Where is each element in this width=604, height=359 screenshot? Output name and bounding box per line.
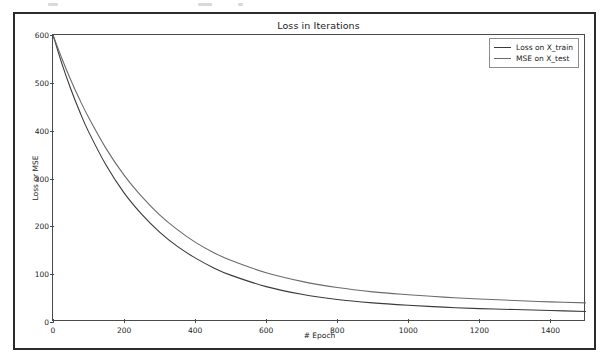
y-tick-label-0: 0 (27, 318, 49, 327)
y-tick-label-6: 600 (27, 31, 49, 40)
x-tick-label-0: 0 (51, 326, 56, 335)
capture-artifact-strip (0, 0, 604, 11)
chart-legend: Loss on X_trainMSE on X_test (489, 38, 579, 68)
series-line-1 (53, 35, 586, 303)
x-tick-label-5: 1000 (399, 326, 418, 335)
y-tick-label-2: 200 (27, 222, 49, 231)
legend-label-1: MSE on X_test (516, 54, 569, 63)
y-tick-label-5: 500 (27, 78, 49, 87)
loss-curves-plot (53, 35, 586, 322)
y-tick-label-4: 400 (27, 126, 49, 135)
x-tick-label-6: 1200 (470, 326, 489, 335)
legend-item-0[interactable]: Loss on X_train (494, 42, 573, 53)
x-tick-label-3: 600 (259, 326, 273, 335)
legend-line-swatch-1 (494, 58, 511, 59)
plot-axes-area: Loss or MSE # Epoch 0100200300400500600 … (52, 34, 585, 321)
y-tick-label-3: 300 (27, 174, 49, 183)
y-tick-label-1: 100 (27, 270, 49, 279)
figure-window-frame: Loss in Iterations Loss or MSE # Epoch 0… (13, 12, 596, 350)
x-tick-label-7: 1400 (541, 326, 560, 335)
chart-title: Loss in Iterations (52, 20, 585, 31)
legend-line-swatch-0 (494, 47, 511, 48)
x-tick-label-1: 200 (117, 326, 131, 335)
x-tick-label-4: 800 (330, 326, 344, 335)
x-tick-label-2: 400 (188, 326, 202, 335)
legend-item-1[interactable]: MSE on X_test (494, 53, 573, 64)
legend-label-0: Loss on X_train (516, 43, 573, 52)
series-line-0 (53, 35, 586, 311)
x-axis-label: # Epoch (53, 331, 586, 340)
